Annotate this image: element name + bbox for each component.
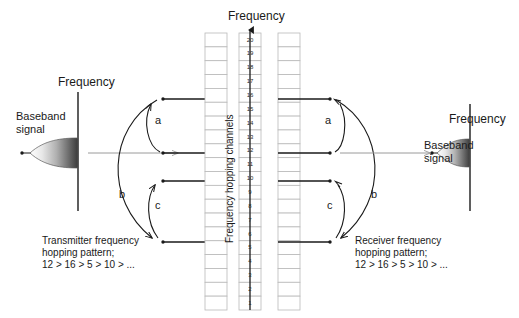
channel-number: 20 — [239, 36, 261, 45]
channel-cell — [278, 158, 300, 172]
transmitter-hop-curve-b — [118, 100, 157, 238]
receiver-baseband-label-line1: Baseband — [424, 139, 474, 151]
receiver-pattern-line2: hopping pattern; — [355, 247, 427, 259]
channel-axis-label: Frequency hopping channels — [224, 115, 236, 243]
receiver-pattern-line1: Receiver frequency — [355, 235, 441, 247]
transmitter-baseband-lobe — [30, 138, 78, 168]
channel-number: 5 — [239, 243, 261, 252]
channel-cell — [278, 282, 300, 296]
receiver-curve-label-a: a — [325, 114, 331, 126]
receiver-hop-curve-a — [335, 104, 345, 152]
transmitter-frequency-label: Frequency — [58, 76, 115, 88]
channel-number: 16 — [239, 91, 261, 100]
channel-number: 14 — [239, 119, 261, 128]
transmitter-curve-label-c: c — [155, 199, 161, 211]
channel-number: 17 — [239, 77, 261, 86]
transmitter-pattern-line3: 12 > 16 > 5 > 10 > ... — [42, 259, 135, 271]
channel-number: 12 — [239, 146, 261, 155]
transmitter-pattern-line2: hopping pattern; — [42, 247, 114, 259]
channel-cell — [205, 88, 227, 102]
channel-cell — [278, 130, 300, 144]
channel-number: 4 — [239, 257, 261, 266]
receiver-frequency-label: Frequency — [449, 113, 506, 125]
transmitter-baseband-label-line2: signal — [16, 123, 45, 135]
receiver-hop-curve-b — [336, 100, 375, 238]
channel-number: 7 — [239, 216, 261, 225]
receiver-hop-curve-c — [336, 185, 345, 238]
receiver-arrowhead-mid — [336, 182, 343, 188]
receiver-baseband-label-line2: signal — [424, 152, 453, 164]
channel-cell — [278, 75, 300, 89]
transmitter-baseband-label-line1: Baseband — [16, 110, 66, 122]
channel-cell — [278, 102, 300, 116]
channel-cell — [278, 268, 300, 282]
channel-cell — [278, 61, 300, 75]
channel-cell — [278, 296, 300, 310]
channel-number: 2 — [239, 285, 261, 294]
channel-cell — [205, 61, 227, 75]
channel-cell — [205, 47, 227, 61]
channel-number: 6 — [239, 230, 261, 239]
channel-number: 9 — [239, 188, 261, 197]
channel-cell — [278, 199, 300, 213]
channel-cell — [278, 227, 300, 241]
channel-cell — [278, 47, 300, 61]
channel-number: 11 — [239, 160, 261, 169]
channel-number: 8 — [239, 202, 261, 211]
transmitter-curve-label-b: b — [119, 188, 125, 200]
frequency-hopping-diagram: Frequency Frequency hopping channels Fre… — [0, 0, 519, 318]
transmitter-channel-leads — [161, 97, 205, 243]
channel-cell — [205, 255, 227, 269]
channel-number: 10 — [239, 174, 261, 183]
receiver-curve-label-b: b — [371, 188, 377, 200]
channel-cell — [278, 185, 300, 199]
receiver-pattern-line3: 12 > 16 > 5 > 10 > ... — [355, 259, 448, 271]
receiver-group — [278, 97, 470, 243]
transmitter-pattern-line1: Transmitter frequency — [42, 235, 139, 247]
channel-cell — [278, 33, 300, 47]
channel-number: 13 — [239, 133, 261, 142]
channel-cell — [278, 172, 300, 186]
channel-cell — [278, 144, 300, 158]
transmitter-hop-curve-c — [149, 185, 158, 238]
transmitter-hop-curve-a — [147, 104, 160, 152]
center-frequency-label: Frequency — [228, 10, 285, 22]
receiver-channel-ladder — [278, 33, 300, 310]
channel-number: 18 — [239, 63, 261, 72]
channel-cell — [278, 255, 300, 269]
channel-cell — [278, 241, 300, 255]
channel-cell — [205, 282, 227, 296]
channel-cell — [205, 296, 227, 310]
channel-number: 1 — [239, 299, 261, 308]
channel-number: 15 — [239, 105, 261, 114]
transmitter-signal-origin-dot — [20, 151, 23, 154]
channel-number: 3 — [239, 271, 261, 280]
channel-cell — [205, 268, 227, 282]
channel-number: 19 — [239, 49, 261, 58]
channel-cell — [205, 75, 227, 89]
channel-cell — [278, 213, 300, 227]
receiver-curve-label-c: c — [327, 199, 333, 211]
channel-cell — [205, 33, 227, 47]
transmitter-curve-label-a: a — [155, 114, 161, 126]
channel-cell — [278, 116, 300, 130]
channel-cell — [278, 88, 300, 102]
